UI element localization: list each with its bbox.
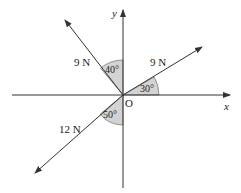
angle-label-30: 30°: [140, 83, 154, 94]
force-vector-9n-30deg: [123, 47, 202, 95]
angle-label-50: 50°: [103, 109, 117, 120]
angle-label-40: 40°: [105, 64, 119, 75]
force-label-9n-right: 9 N: [150, 56, 166, 68]
y-axis-label: y: [111, 7, 117, 19]
force-label-12n: 12 N: [59, 123, 81, 135]
origin-label: O: [125, 97, 133, 109]
force-label-9n-left: 9 N: [74, 56, 90, 68]
x-axis-label: x: [223, 100, 229, 112]
force-diagram: y x O 9 N 30° 9 N 40° 12 N 50°: [0, 0, 241, 193]
